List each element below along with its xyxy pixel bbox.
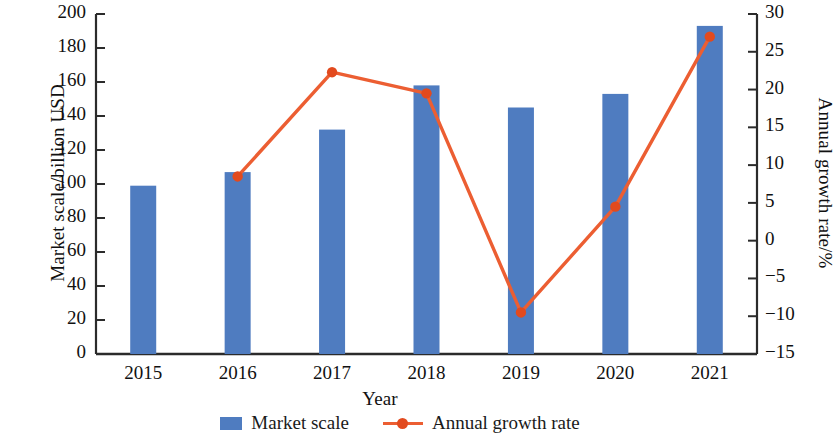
bar-2016 — [225, 172, 251, 354]
right-axis-ticks — [748, 14, 757, 354]
bar-2020 — [602, 94, 628, 354]
bar-2018 — [414, 85, 440, 354]
line-series-annual-growth-rate — [232, 31, 715, 317]
legend-item-annual-growth-rate: Annual growth rate — [383, 412, 580, 434]
bar-swatch-icon — [220, 417, 242, 430]
x-tick-label-2017: 2017 — [292, 362, 372, 384]
growth-marker-2017 — [327, 67, 337, 77]
growth-marker-2020 — [610, 201, 620, 211]
chart-legend: Market scale Annual growth rate — [0, 412, 800, 434]
x-tick-label-2020: 2020 — [575, 362, 655, 384]
growth-marker-2018 — [421, 88, 431, 98]
bar-2015 — [130, 186, 156, 354]
y-axis-right-title: Annual growth rate/% — [814, 13, 836, 353]
bar-series-market-scale — [130, 26, 723, 354]
x-tick-label-2016: 2016 — [198, 362, 278, 384]
x-tick-label-2019: 2019 — [481, 362, 561, 384]
bar-2021 — [697, 26, 723, 354]
x-tick-label-2018: 2018 — [387, 362, 467, 384]
growth-rate-polyline — [238, 37, 710, 313]
x-tick-label-2015: 2015 — [103, 362, 183, 384]
legend-label-market-scale: Market scale — [251, 412, 349, 434]
y-axis-left-title: Market scale/billion USD — [47, 13, 69, 353]
x-tick-label-2021: 2021 — [670, 362, 750, 384]
legend-item-market-scale: Market scale — [220, 412, 349, 434]
legend-label-annual-growth-rate: Annual growth rate — [432, 412, 580, 434]
growth-marker-2019 — [516, 307, 526, 317]
chart-container: 200180160140120100806040200 302520151050… — [0, 0, 839, 443]
bar-2017 — [319, 130, 345, 354]
growth-marker-2016 — [232, 171, 242, 181]
left-axis-ticks — [96, 14, 105, 354]
growth-marker-2021 — [705, 31, 715, 41]
x-axis-title: Year — [0, 388, 760, 410]
line-marker-icon — [383, 416, 423, 430]
